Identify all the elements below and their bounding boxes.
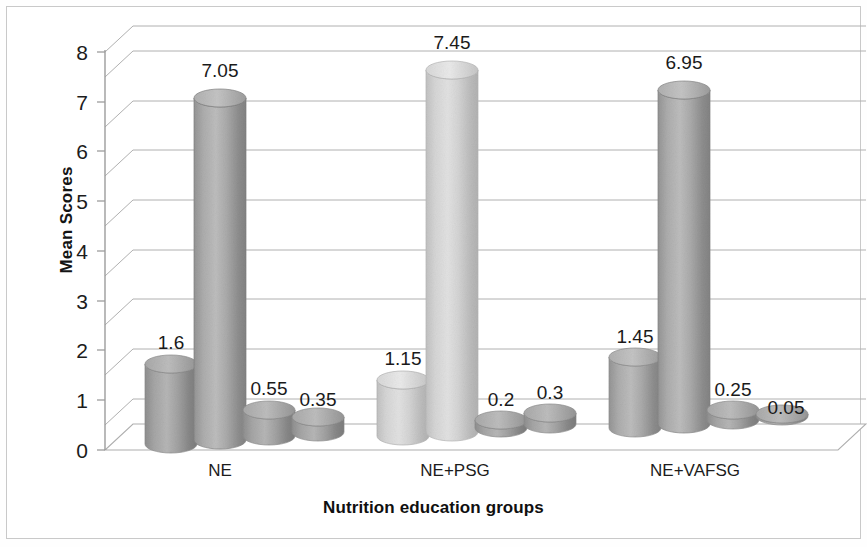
y-tick-label-0: 0 bbox=[52, 440, 88, 461]
x-axis-title: Nutrition education groups bbox=[0, 498, 867, 518]
x-tick-label-ne-vafsg: NE+VAFSG bbox=[625, 462, 765, 479]
x-tick-label-ne-psg: NE+PSG bbox=[395, 462, 515, 479]
data-label-nevafsg-series2: 6.95 bbox=[648, 53, 720, 72]
y-tick-label-7: 7 bbox=[52, 92, 88, 113]
bar-ne-series4[interactable] bbox=[292, 408, 344, 441]
bar-nepsg-series3[interactable] bbox=[475, 411, 527, 437]
data-label-nevafsg-series3: 0.25 bbox=[697, 380, 769, 399]
data-label-nevafsg-series4: 0.05 bbox=[750, 398, 822, 417]
y-tick-label-8: 8 bbox=[52, 42, 88, 63]
bar-nevafsg-series1[interactable] bbox=[609, 348, 661, 437]
data-label-ne-series1: 1.6 bbox=[135, 333, 207, 352]
y-tick-label-1: 1 bbox=[52, 390, 88, 411]
data-label-nevafsg-series1: 1.45 bbox=[599, 327, 671, 346]
bar-nepsg-series2[interactable] bbox=[426, 61, 478, 441]
chart-figure: 0 1 2 3 4 5 6 7 8 Mean Scores NE NE+PSG … bbox=[0, 0, 867, 547]
data-label-nepsg-series2: 7.45 bbox=[416, 33, 488, 52]
bar-ne-series1[interactable] bbox=[145, 355, 197, 453]
data-label-ne-series4: 0.35 bbox=[282, 390, 354, 409]
data-label-nepsg-series4: 0.3 bbox=[514, 383, 586, 402]
data-label-ne-series2: 7.05 bbox=[184, 61, 256, 80]
x-tick-label-ne: NE bbox=[165, 462, 275, 479]
bar-nepsg-series1[interactable] bbox=[377, 371, 429, 445]
data-label-nepsg-series1: 1.15 bbox=[367, 349, 439, 368]
y-axis-ticks bbox=[97, 52, 105, 450]
y-tick-label-2: 2 bbox=[52, 340, 88, 361]
y-axis-title: Mean Scores bbox=[57, 140, 77, 300]
